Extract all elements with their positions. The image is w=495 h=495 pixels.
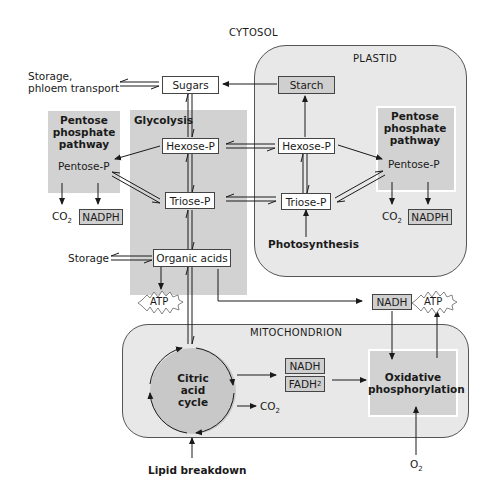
cytosol-label: CYTOSOL — [229, 27, 278, 38]
hexose-p-cytosol-node: Hexose-P — [162, 138, 219, 154]
atp-oxphos: ATP — [424, 296, 442, 307]
atp-glycolysis: ATP — [150, 296, 168, 307]
fadh2-mito-node: FADH2 — [285, 376, 325, 392]
triose-p-plastid-node: Triose-P — [281, 193, 331, 210]
nadph-cytosol-node: NADPH — [79, 209, 123, 225]
co2-mito: CO2 — [260, 400, 280, 415]
photosynthesis-label: Photosynthesis — [268, 238, 359, 250]
metabolism-diagram: CYTOSOL PLASTID MITOCHONDRION Glycolysis… — [0, 0, 495, 495]
pentose-p-plastid: Pentose-P — [388, 158, 440, 170]
plastid-label: PLASTID — [353, 53, 397, 64]
hexose-p-plastid-node: Hexose-P — [278, 138, 335, 154]
pentose-p-cytosol: Pentose-P — [58, 160, 110, 172]
oxphos-label: Oxidative phosphorylation — [368, 371, 458, 395]
mitochondrion-label: MITOCHONDRION — [250, 327, 342, 338]
nadh-mito-node: NADH — [285, 358, 325, 374]
ppp-cytosol-label: Pentose phosphate pathway — [52, 114, 116, 150]
co2-cytosol: CO2 — [52, 210, 72, 225]
ppp-plastid-label: Pentose phosphate pathway — [380, 110, 450, 146]
nadph-plastid-node: NADPH — [408, 209, 452, 225]
citric-acid-cycle-label: Citric acid cycle — [166, 372, 220, 408]
co2-plastid: CO2 — [382, 210, 402, 225]
storage-label: Storage — [68, 252, 109, 264]
storage-phloem-label: Storage, phloem transport — [28, 70, 119, 94]
o2-label: O2 — [410, 458, 423, 473]
lipid-breakdown-label: Lipid breakdown — [148, 464, 246, 476]
organic-acids-node: Organic acids — [153, 249, 231, 267]
glycolysis-label: Glycolysis — [134, 114, 193, 126]
sugars-node: Sugars — [162, 76, 219, 94]
triose-p-cytosol-node: Triose-P — [165, 192, 215, 209]
starch-node: Starch — [278, 76, 335, 94]
nadh-cytosol-node: NADH — [372, 294, 412, 310]
